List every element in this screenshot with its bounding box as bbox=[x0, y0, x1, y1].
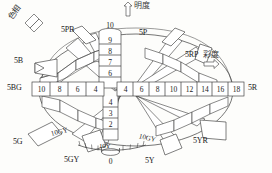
value-axis-bottom-label: 0 bbox=[105, 157, 117, 166]
chroma-cell-left-6: 6 bbox=[69, 85, 86, 94]
axis-label-value: 明度 bbox=[134, 1, 146, 10]
hue-label-5Y: 5Y bbox=[145, 157, 154, 165]
hue-label-5G: 5G bbox=[13, 138, 22, 146]
chroma-cell-right-4: 4 bbox=[118, 85, 133, 94]
hue-label-5YR: 5YR bbox=[193, 137, 208, 145]
value-axis-step-3: 3 bbox=[105, 109, 117, 118]
hue-label-5R: 5R bbox=[248, 84, 257, 92]
chroma-cell-right-14: 14 bbox=[198, 85, 212, 94]
value-axis-top-label: 10 bbox=[104, 21, 116, 30]
hue-label-5RP: 5RP bbox=[185, 51, 198, 59]
value-axis-step-6: 6 bbox=[104, 69, 116, 78]
chroma-cell-right-8: 8 bbox=[150, 85, 165, 94]
chroma-cell-right-10: 10 bbox=[166, 85, 181, 94]
axis-label-chroma: 彩度 bbox=[203, 50, 219, 59]
value-axis-step-2: 2 bbox=[105, 120, 117, 129]
hue-label-5PB: 5PB bbox=[61, 26, 74, 34]
value-axis-step-7: 7 bbox=[104, 58, 116, 67]
hue-label-5GY: 5GY bbox=[64, 156, 79, 164]
value-axis-step-4: 4 bbox=[105, 98, 117, 107]
hue-label-5B: 5B bbox=[14, 57, 23, 65]
hue-label-5BG: 5BG bbox=[7, 84, 22, 92]
value-axis-step-8: 8 bbox=[104, 47, 116, 56]
arrow-up-icon bbox=[124, 2, 132, 16]
chroma-cell-right-12: 12 bbox=[182, 85, 197, 94]
chroma-cell-right-16: 16 bbox=[213, 85, 228, 94]
chroma-cell-left-8: 8 bbox=[51, 85, 68, 94]
chroma-cell-left-4: 4 bbox=[87, 85, 104, 94]
chroma-cell-right-6: 6 bbox=[134, 85, 149, 94]
value-axis-step-9: 9 bbox=[104, 36, 116, 45]
chroma-cell-left-10: 10 bbox=[33, 85, 50, 94]
chroma-cell-right-18: 18 bbox=[229, 85, 244, 94]
hue-label-5P: 5P bbox=[139, 29, 147, 37]
munsell-color-solid-diagram: .ln{fill:none;stroke:#3b3b3b;stroke-widt… bbox=[0, 0, 272, 173]
inner-label-10Y: 10Y bbox=[99, 143, 110, 150]
